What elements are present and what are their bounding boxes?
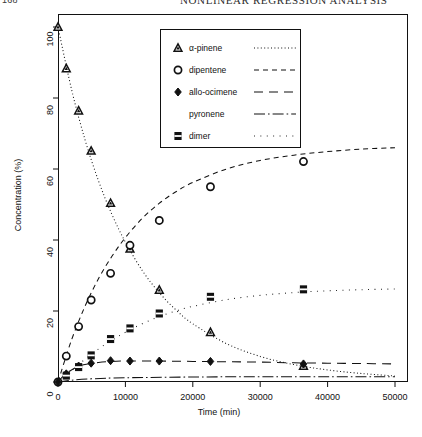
legend-item: pyronene xyxy=(161,103,302,125)
data-marker-circle xyxy=(75,323,82,330)
legend-line-sample xyxy=(253,81,297,103)
series-dipentene xyxy=(54,148,395,386)
series-fit-line xyxy=(58,377,395,382)
data-marker-diamond xyxy=(207,357,214,365)
chart-legend: α-pinenedipenteneallo-ocimenepyronenedim… xyxy=(160,29,301,148)
legend-marker-diamond-icon xyxy=(170,81,186,103)
data-marker-dimer xyxy=(107,335,114,343)
legend-label: allo-ocimene xyxy=(189,81,237,103)
data-marker-circle xyxy=(174,66,181,73)
legend-item: allo-ocimene xyxy=(161,81,302,103)
y-tick-label: 80 xyxy=(45,96,55,124)
data-marker-dimer xyxy=(63,372,70,380)
legend-line-sample xyxy=(253,37,297,59)
y-tick-label: 20 xyxy=(45,309,55,337)
x-tick-label: 0 xyxy=(35,392,81,402)
data-marker-circle xyxy=(207,183,214,190)
legend-item: α-pinene xyxy=(161,37,302,59)
data-marker-diamond xyxy=(127,357,134,365)
data-marker-circle xyxy=(156,217,163,224)
legend-label: pyronene xyxy=(189,103,224,125)
y-tick-label: 100 xyxy=(45,25,55,53)
data-marker-dimer xyxy=(126,324,133,332)
data-marker-diamond xyxy=(156,357,163,365)
legend-marker-none-icon xyxy=(170,103,186,125)
data-marker-diamond xyxy=(107,357,114,365)
data-marker-circle xyxy=(107,270,114,277)
data-marker-dimer xyxy=(207,293,214,301)
x-tick-label: 30000 xyxy=(237,392,283,402)
legend-line-sample xyxy=(253,59,297,81)
data-marker-dimer xyxy=(88,351,95,359)
x-tick-label: 50000 xyxy=(372,392,418,402)
legend-marker-square-dotted-icon xyxy=(170,125,186,147)
data-marker-dimer xyxy=(174,132,181,140)
data-marker-dimer xyxy=(300,285,307,293)
legend-marker-triangle-icon xyxy=(170,37,186,59)
data-marker-circle xyxy=(300,158,307,165)
legend-line-sample xyxy=(253,103,297,125)
data-marker-circle xyxy=(63,352,70,359)
legend-label: dimer xyxy=(189,125,210,147)
data-marker-circle xyxy=(126,242,133,249)
series-dimer xyxy=(58,285,395,382)
series-pyronene xyxy=(58,377,395,382)
y-tick-label: 40 xyxy=(45,238,55,266)
x-tick-label: 40000 xyxy=(305,392,351,402)
legend-label: α-pinene xyxy=(189,37,222,59)
x-tick-label: 20000 xyxy=(170,392,216,402)
data-marker-diamond xyxy=(175,88,182,96)
data-marker-circle xyxy=(88,296,95,303)
figure-page: 168 NONLINEAR REGRESSION ANALYSIS 020406… xyxy=(0,0,422,437)
legend-label: dipentene xyxy=(189,59,226,81)
data-marker-diamond xyxy=(88,359,95,367)
y-axis-title: Concentration (%) xyxy=(13,150,23,240)
data-marker-dimer xyxy=(75,363,82,371)
y-tick-label: 60 xyxy=(45,167,55,195)
legend-marker-circle-icon xyxy=(170,59,186,81)
x-axis-title: Time (min) xyxy=(8,407,422,417)
x-tick-label: 10000 xyxy=(102,392,148,402)
legend-item: dipentene xyxy=(161,59,302,81)
legend-line-sample xyxy=(253,125,297,147)
series-fit-line xyxy=(58,148,395,382)
data-marker-dimer xyxy=(156,309,163,317)
legend-item: dimer xyxy=(161,125,302,147)
